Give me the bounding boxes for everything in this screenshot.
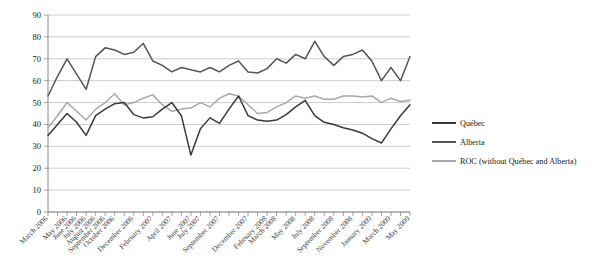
y-axis-tick-label: 40 (33, 119, 42, 129)
y-axis-tick-label: 90 (33, 10, 42, 20)
chart-canvas: 0102030405060708090March 2006May 2006Jun… (0, 0, 606, 271)
x-axis-tick-labels: March 2006May 2006June 2006July 2006Augu… (18, 214, 412, 255)
series-line-alberta (48, 41, 410, 96)
y-axis-tick-label: 80 (33, 32, 42, 42)
axes (48, 15, 410, 212)
y-axis-tick-label: 70 (33, 54, 42, 64)
y-axis-tick-label: 60 (33, 76, 42, 86)
line-chart: 0102030405060708090March 2006May 2006Jun… (0, 0, 606, 271)
x-axis-tick-label: March 2006 (18, 214, 50, 246)
grid-lines: 0102030405060708090 (33, 10, 411, 217)
x-axis-ticks (48, 212, 410, 216)
y-axis-tick-label: 10 (33, 185, 42, 195)
y-axis-tick-label: 20 (33, 163, 42, 173)
legend: QuébecAlbertaROC (without Québec and Alb… (432, 119, 577, 166)
legend-label: Québec (460, 119, 485, 128)
y-axis-tick-label: 30 (33, 141, 42, 151)
series-lines (48, 41, 410, 155)
y-axis-tick-label: 50 (33, 98, 42, 108)
legend-label: ROC (without Québec and Alberta) (460, 157, 577, 166)
legend-label: Alberta (460, 138, 485, 147)
